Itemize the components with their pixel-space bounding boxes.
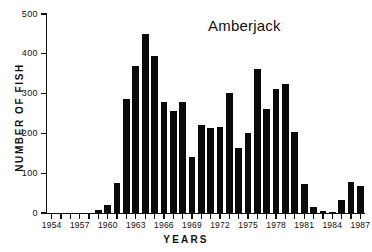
- x-axis-tick: [304, 214, 305, 219]
- plot-area: [47, 14, 365, 213]
- x-axis-tick: [332, 214, 333, 219]
- x-axis-tick: [229, 214, 230, 219]
- bar: [310, 207, 317, 213]
- bar: [263, 109, 270, 213]
- x-axis-tick-label: 1981: [294, 220, 314, 230]
- x-axis-tick: [126, 214, 127, 219]
- bar: [179, 102, 186, 213]
- bar: [282, 84, 289, 213]
- bar: [114, 183, 121, 213]
- bar: [151, 56, 158, 213]
- x-axis-tick: [79, 214, 80, 219]
- x-axis-tick: [60, 214, 61, 219]
- y-axis-tick-labels: 0100200300400500: [0, 0, 38, 252]
- bar: [273, 89, 280, 213]
- x-axis-tick: [191, 214, 192, 219]
- x-axis-tick: [116, 214, 117, 219]
- x-axis-tick-label: 1963: [126, 220, 146, 230]
- chart-figure: Amberjack NUMBER OF FISH YEARS 010020030…: [0, 0, 372, 252]
- x-axis-tick-label: 1969: [182, 220, 202, 230]
- x-axis-title: YEARS: [0, 234, 372, 245]
- x-axis-tick: [294, 214, 295, 219]
- bar: [226, 93, 233, 213]
- bar: [123, 99, 130, 213]
- x-axis-tick: [98, 214, 99, 219]
- bar: [357, 186, 364, 213]
- x-axis-tick-label: 1975: [238, 220, 258, 230]
- x-axis-tick: [313, 214, 314, 219]
- bar: [142, 34, 149, 213]
- bar: [189, 157, 196, 213]
- bar: [170, 111, 177, 213]
- x-axis-tick: [210, 214, 211, 219]
- x-axis-tick: [341, 214, 342, 219]
- x-axis-tick-label: 1957: [70, 220, 90, 230]
- bar: [132, 66, 139, 213]
- bar: [245, 133, 252, 213]
- x-axis-tick: [219, 214, 220, 219]
- x-axis-tick: [145, 214, 146, 219]
- bar: [95, 210, 102, 213]
- x-axis-tick: [275, 214, 276, 219]
- x-axis-tick-label: 1978: [266, 220, 286, 230]
- x-axis-tick: [70, 214, 71, 219]
- x-axis-tick: [257, 214, 258, 219]
- bar: [104, 205, 111, 213]
- bar: [161, 102, 168, 213]
- bar: [301, 184, 308, 213]
- y-axis-tick-label: 0: [4, 209, 38, 218]
- bar: [207, 128, 214, 213]
- bar: [348, 182, 355, 213]
- x-axis-tick: [322, 214, 323, 219]
- y-axis-tick-label: 300: [4, 89, 38, 98]
- x-axis-tick: [285, 214, 286, 219]
- x-axis-tick-label: 1960: [98, 220, 118, 230]
- x-axis-tick: [266, 214, 267, 219]
- y-axis-tick-label: 400: [4, 49, 38, 58]
- x-axis-tick-label: 1966: [154, 220, 174, 230]
- bar: [291, 132, 298, 213]
- x-axis-tick: [360, 214, 361, 219]
- x-axis-tick: [51, 214, 52, 219]
- y-axis-tick-label: 200: [4, 129, 38, 138]
- bar: [198, 125, 205, 213]
- x-axis-tick-label: 1954: [42, 220, 62, 230]
- x-axis-tick: [107, 214, 108, 219]
- x-axis-tick: [163, 214, 164, 219]
- x-axis-tick: [135, 214, 136, 219]
- x-axis-tick: [182, 214, 183, 219]
- bar: [338, 200, 345, 213]
- bar: [217, 127, 224, 213]
- y-axis-tick-label: 500: [4, 10, 38, 19]
- bar: [254, 69, 261, 213]
- x-axis-tick: [247, 214, 248, 219]
- x-axis-tick-label: 1984: [322, 220, 342, 230]
- x-axis-tick: [88, 214, 89, 219]
- x-axis-tick-label: 1972: [210, 220, 230, 230]
- bar: [329, 212, 336, 213]
- x-axis-tick: [238, 214, 239, 219]
- bar: [320, 211, 327, 213]
- x-axis-tick: [201, 214, 202, 219]
- bar: [235, 148, 242, 213]
- x-axis-tick: [173, 214, 174, 219]
- x-axis-tick-label: 1987: [350, 220, 370, 230]
- x-axis-tick: [350, 214, 351, 219]
- y-axis-tick-label: 100: [4, 169, 38, 178]
- x-axis-tick: [154, 214, 155, 219]
